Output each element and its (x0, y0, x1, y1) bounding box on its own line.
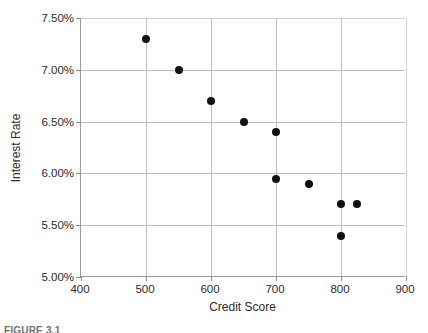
data-point (272, 128, 280, 136)
data-point (305, 180, 313, 188)
x-axis-title: Credit Score (80, 300, 405, 314)
gridline-vertical (406, 18, 407, 276)
figure-caption: FIGURE 3.1 (4, 325, 60, 333)
gridline-vertical (211, 18, 212, 276)
data-point (353, 200, 361, 208)
y-axis-tick (76, 173, 81, 174)
x-axis-tick (81, 276, 82, 281)
x-axis-tick-label: 900 (395, 283, 414, 296)
y-axis-tick-label: 5.00% (41, 271, 74, 283)
gridline-vertical (146, 18, 147, 276)
data-point (240, 118, 248, 126)
gridline-horizontal (81, 18, 405, 19)
y-axis-tick-label: 5.50% (41, 219, 74, 231)
x-axis-tick-label: 400 (70, 283, 89, 296)
x-axis-tick-label: 700 (265, 283, 284, 296)
plot-area (80, 18, 405, 277)
x-axis-tick (406, 276, 407, 281)
x-axis-tick (276, 276, 277, 281)
data-point (337, 232, 345, 240)
y-axis-tick (76, 18, 81, 19)
x-axis-title-text: Credit Score (209, 300, 276, 314)
y-axis-tick-label: 7.50% (41, 12, 74, 24)
y-axis-tick (76, 122, 81, 123)
data-point (337, 200, 345, 208)
x-axis-tick (146, 276, 147, 281)
y-axis-tick (76, 225, 81, 226)
x-axis-tick-label: 500 (135, 283, 154, 296)
data-point (207, 97, 215, 105)
y-axis-tick-labels: 5.00%5.50%6.00%6.50%7.00%7.50% (0, 18, 74, 277)
data-point (142, 35, 150, 43)
data-point (175, 66, 183, 74)
x-axis-tick-label: 800 (330, 283, 349, 296)
data-point (272, 175, 280, 183)
gridline-horizontal (81, 70, 405, 71)
gridline-horizontal (81, 173, 405, 174)
gridline-vertical (276, 18, 277, 276)
y-axis-tick-label: 7.00% (41, 64, 74, 76)
y-axis-tick (76, 70, 81, 71)
scatter-plot-figure: Interest Rate 5.00%5.50%6.00%6.50%7.00%7… (0, 0, 428, 333)
x-axis-tick-label: 600 (200, 283, 219, 296)
x-axis-tick-labels: 400500600700800900 (80, 283, 405, 299)
y-axis-tick-label: 6.50% (41, 116, 74, 128)
x-axis-tick (211, 276, 212, 281)
x-axis-tick (341, 276, 342, 281)
gridline-horizontal (81, 225, 405, 226)
y-axis-tick-label: 6.00% (41, 167, 74, 179)
